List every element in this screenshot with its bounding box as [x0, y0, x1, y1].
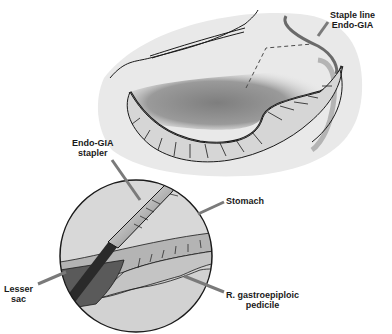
- label-lesser-sac: Lesser sac: [4, 284, 33, 304]
- label-staple-line-2: Endo-GIA: [330, 20, 375, 30]
- label-stomach-1: Stomach: [226, 196, 264, 206]
- label-staple-line: Staple line Endo-GIA: [330, 10, 375, 30]
- label-stomach: Stomach: [226, 196, 264, 206]
- label-staple-line-1: Staple line: [330, 10, 375, 20]
- label-lesser-sac-2: sac: [4, 294, 33, 304]
- label-stapler-1: Endo-GIA: [72, 138, 114, 148]
- upper-view: [98, 10, 362, 176]
- label-stapler-2: stapler: [72, 148, 114, 158]
- label-lesser-sac-1: Lesser: [4, 284, 33, 294]
- surgical-illustration: [0, 0, 392, 334]
- label-pedicle: R. gastroepiploic pedicile: [226, 290, 299, 310]
- lesser-sac-leader: [38, 272, 66, 284]
- label-pedicle-1: R. gastroepiploic: [226, 290, 299, 300]
- magnified-view: [60, 180, 220, 332]
- stomach-leader: [198, 202, 224, 214]
- label-pedicle-2: pedicile: [226, 300, 299, 310]
- label-stapler: Endo-GIA stapler: [72, 138, 114, 158]
